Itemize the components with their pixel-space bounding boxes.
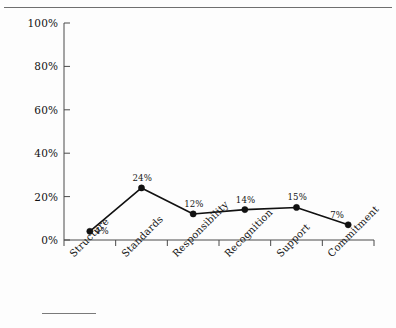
data-point-value-label: 7% xyxy=(330,211,344,220)
line-chart: 0%20%40%60%80%100% StructureStandardsRes… xyxy=(0,0,396,328)
data-point-value-label: 12% xyxy=(184,200,203,209)
series-marker xyxy=(138,185,144,191)
data-point-value-label: 15% xyxy=(288,193,307,202)
data-point-value-label: 24% xyxy=(133,174,152,183)
footnote-divider-rule xyxy=(42,313,96,314)
chart-plot-area xyxy=(0,0,396,328)
data-point-value-label: 4% xyxy=(95,227,109,236)
y-axis-tick-label-text: 40% xyxy=(34,148,58,159)
y-axis-tick-label-text: 60% xyxy=(34,105,58,116)
series-marker xyxy=(190,211,196,217)
x-axis-ticks xyxy=(64,240,374,246)
chart-page: 0%20%40%60%80%100% StructureStandardsRes… xyxy=(0,0,396,328)
series-marker xyxy=(293,204,299,210)
y-axis-ticks xyxy=(64,23,70,240)
series-marker xyxy=(242,207,248,213)
y-axis-tick-label-text: 0% xyxy=(41,235,58,246)
y-axis-tick-label-text: 20% xyxy=(34,191,58,202)
y-axis-tick-label-text: 80% xyxy=(34,61,58,72)
data-point-value-label: 14% xyxy=(236,196,255,205)
y-axis-tick-label-text: 100% xyxy=(28,18,58,29)
